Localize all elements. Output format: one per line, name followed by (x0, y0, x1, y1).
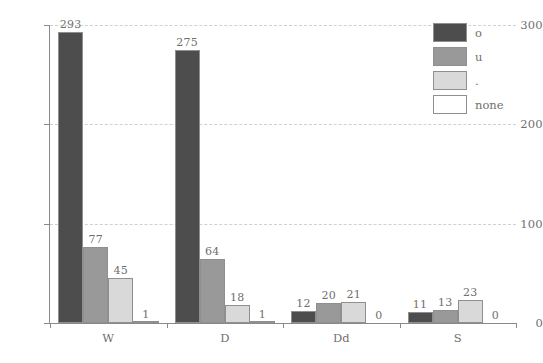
y-axis-line (49, 25, 50, 323)
bar-Dd-o (291, 311, 316, 323)
legend-label-o: o (475, 26, 482, 40)
bar-D-u (200, 259, 225, 323)
y-tick-mark-100 (44, 224, 49, 225)
legend-label-u: u (475, 50, 482, 64)
bar-S-u (433, 310, 458, 323)
bar-Dd-u (316, 303, 341, 323)
bar-S-. (458, 300, 483, 323)
bar-value-label-S-o: 11 (413, 298, 427, 311)
legend-swatch-. (433, 71, 467, 90)
bar-value-label-S-none: 0 (492, 309, 499, 322)
y-tick-label-200: 200 (499, 117, 543, 131)
bar-W-o (58, 32, 83, 323)
bar-value-label-Dd-.: 21 (347, 288, 361, 301)
legend-item-none: none (433, 95, 533, 117)
x-tick-mark-0 (50, 323, 51, 328)
bar-S-o (408, 312, 433, 323)
legend-item-u: u (433, 47, 533, 69)
x-group-label-Dd: Dd (333, 331, 350, 345)
legend-swatch-none (433, 95, 467, 114)
legend-item-o: o (433, 23, 533, 45)
bar-value-label-W-o: 293 (60, 18, 82, 31)
x-tick-mark-end (516, 323, 517, 328)
bar-value-label-Dd-u: 20 (321, 289, 335, 302)
x-group-label-W: W (102, 331, 114, 345)
y-tick-mark-0 (44, 323, 49, 324)
bar-Dd-. (341, 302, 366, 323)
gridline-200 (50, 124, 516, 125)
bar-value-label-D-u: 64 (205, 245, 219, 258)
bar-value-label-S-u: 13 (438, 296, 452, 309)
x-group-label-D: D (220, 331, 229, 345)
y-tick-mark-300 (44, 25, 49, 26)
y-tick-mark-200 (44, 124, 49, 125)
bar-value-label-D-none: 1 (259, 308, 266, 321)
bar-W-u (83, 247, 108, 323)
y-tick-label-0: 0 (499, 316, 543, 330)
legend-item-.: . (433, 71, 533, 93)
bar-value-label-W-none: 1 (142, 308, 149, 321)
legend: ou.none (433, 23, 533, 119)
bar-value-label-Dd-none: 0 (375, 309, 382, 322)
bar-D-. (225, 305, 250, 323)
bar-value-label-D-o: 275 (176, 36, 198, 49)
bar-value-label-D-.: 18 (230, 291, 244, 304)
bar-value-label-W-u: 77 (88, 233, 102, 246)
legend-swatch-o (433, 23, 467, 42)
x-tick-mark-1 (167, 323, 168, 328)
legend-swatch-u (433, 47, 467, 66)
bar-D-o (175, 50, 200, 323)
x-group-label-S: S (454, 331, 462, 345)
legend-label-none: none (475, 98, 504, 112)
bar-W-. (108, 278, 133, 323)
legend-label-.: . (475, 74, 479, 88)
y-tick-label-100: 100 (499, 217, 543, 231)
bar-chart: 293774512756418112202101113230 300200100… (0, 0, 543, 363)
gridline-100 (50, 224, 516, 225)
bar-value-label-Dd-o: 12 (296, 297, 310, 310)
bar-value-label-W-.: 45 (114, 264, 128, 277)
x-tick-mark-2 (283, 323, 284, 328)
bar-value-label-S-.: 23 (463, 286, 477, 299)
x-tick-mark-3 (400, 323, 401, 328)
